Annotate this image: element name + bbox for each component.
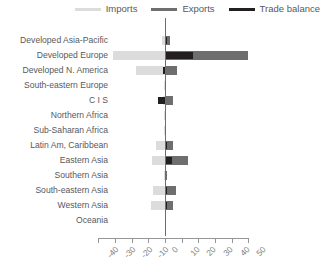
bar-balance bbox=[158, 97, 165, 104]
axis-tick bbox=[232, 238, 233, 243]
zero-reference-line bbox=[165, 18, 166, 236]
axis-tick-label: 20 bbox=[205, 245, 218, 258]
value-axis: -40-30-20-1001020304050 bbox=[0, 236, 322, 265]
legend-item-trade-balance: Trade balance bbox=[229, 4, 320, 14]
chart-legend: Imports Exports Trade balance bbox=[0, 0, 322, 18]
legend-label-imports: Imports bbox=[106, 4, 138, 14]
axis-tick bbox=[115, 238, 116, 243]
chart-root: Imports Exports Trade balance Developed … bbox=[0, 0, 322, 265]
axis-tick bbox=[248, 238, 249, 243]
axis-tick bbox=[215, 238, 216, 243]
axis-tick-label: 10 bbox=[188, 245, 201, 258]
axis-tick bbox=[148, 238, 149, 243]
axis-tick-label: 50 bbox=[255, 245, 268, 258]
axis-tick-label: -20 bbox=[139, 245, 154, 260]
bar-imports bbox=[156, 141, 165, 150]
axis-tick-label: -40 bbox=[106, 245, 121, 260]
plot-area: Developed Asia-PacificDeveloped EuropeDe… bbox=[0, 18, 322, 265]
axis-tick-label: -10 bbox=[156, 245, 171, 260]
legend-label-trade-balance: Trade balance bbox=[260, 4, 320, 14]
axis-tick-label: 40 bbox=[238, 245, 251, 258]
axis-tick bbox=[182, 238, 183, 243]
axis-tick bbox=[132, 238, 133, 243]
axis-tick bbox=[165, 238, 166, 243]
bar-imports bbox=[113, 51, 165, 60]
axis-line bbox=[98, 238, 248, 239]
bar-imports bbox=[153, 186, 165, 195]
axis-tick-label: -30 bbox=[123, 245, 138, 260]
axis-tick-label: 30 bbox=[222, 245, 235, 258]
axis-tick bbox=[198, 238, 199, 243]
axis-tick-label: 0 bbox=[170, 245, 179, 254]
legend-label-exports: Exports bbox=[182, 4, 214, 14]
legend-item-imports: Imports bbox=[75, 4, 138, 14]
legend-swatch-trade-balance bbox=[229, 8, 255, 11]
bars-layer bbox=[0, 18, 322, 236]
bar-balance bbox=[165, 52, 193, 59]
bar-imports bbox=[152, 156, 165, 165]
bar-exports bbox=[165, 66, 177, 75]
axis-tick bbox=[98, 238, 99, 243]
bar-exports bbox=[165, 96, 173, 105]
legend-swatch-exports bbox=[151, 8, 177, 11]
bar-imports bbox=[136, 66, 165, 75]
legend-swatch-imports bbox=[75, 8, 101, 11]
legend-item-exports: Exports bbox=[151, 4, 214, 14]
bar-imports bbox=[151, 201, 165, 210]
